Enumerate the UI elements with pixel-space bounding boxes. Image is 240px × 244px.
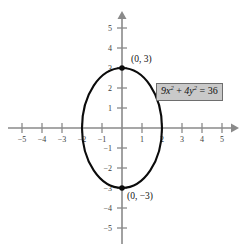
x-tick-label: 3 (180, 135, 184, 144)
y-tick-label: −1 (103, 144, 112, 153)
vertex-label-top: (0, 3) (131, 54, 152, 65)
x-axis-arrow-icon (231, 124, 239, 133)
x-tick-label: −1 (98, 135, 107, 144)
equation-label: 9x2 + 4y2 = 36 (156, 83, 223, 101)
x-axis-tick-labels: −5 −4 −3 −2 −1 1 2 3 4 5 (18, 135, 224, 144)
y-tick-label: 2 (108, 84, 112, 93)
x-tick-label: 1 (140, 135, 144, 144)
vertex-point-top (119, 65, 125, 71)
vertex-point-bottom (119, 185, 125, 191)
equation-equals: = (197, 85, 208, 96)
coordinate-plane: −5 −4 −3 −2 −1 1 2 3 4 5 5 4 (0, 0, 240, 244)
x-tick-label: −5 (18, 135, 27, 144)
equation-plus: + (174, 85, 185, 96)
x-tick-label: −4 (38, 135, 47, 144)
y-tick-label: −5 (103, 224, 112, 233)
y-axis-arrow-icon (118, 11, 127, 19)
y-tick-label: 5 (108, 24, 112, 33)
y-tick-label: −2 (103, 164, 112, 173)
ellipse-graph-figure: −5 −4 −3 −2 −1 1 2 3 4 5 5 4 (0, 0, 240, 244)
y-tick-label: −4 (103, 204, 112, 213)
y-tick-label: 4 (108, 44, 112, 53)
x-tick-label: −3 (58, 135, 67, 144)
y-tick-label: 1 (108, 104, 112, 113)
x-tick-label: 5 (220, 135, 224, 144)
x-tick-label: 4 (200, 135, 204, 144)
equation-rhs: 36 (208, 85, 218, 96)
vertex-label-bottom: (0, −3) (127, 191, 153, 202)
